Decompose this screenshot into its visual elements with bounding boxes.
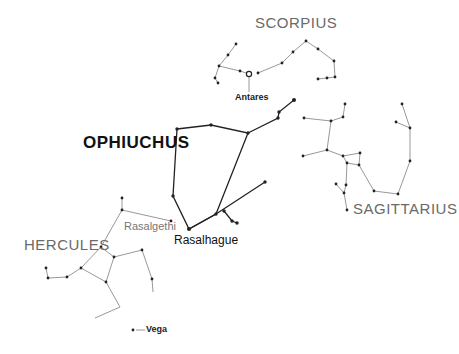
ophiuchus-stars	[171, 98, 296, 231]
label-ophiuchus: OPHIUCHUS	[83, 133, 190, 153]
ophiuchus-lines	[173, 100, 294, 229]
label-sagittarius: SAGITTARIUS	[353, 200, 457, 217]
label-scorpius: SCORPIUS	[255, 14, 337, 31]
label-antares: Antares	[235, 92, 269, 102]
label-rasalhague: Rasalhague	[174, 233, 238, 247]
label-vega: Vega	[146, 324, 167, 334]
scorpius-stars	[214, 40, 337, 85]
sagittarius-lines	[303, 104, 410, 210]
sagittarius-stars	[302, 103, 412, 212]
label-rasalgethi: Rasalgethi	[124, 220, 176, 232]
hercules-lines	[46, 198, 171, 330]
antares-star	[246, 71, 251, 76]
label-hercules: HERCULES	[24, 236, 110, 253]
star-chart	[0, 0, 459, 354]
